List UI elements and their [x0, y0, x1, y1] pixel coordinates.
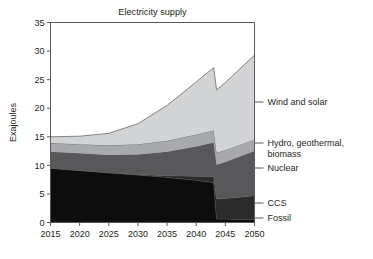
legend-label-hydro-geothermal-biomass: biomass: [268, 149, 302, 159]
legend-label-wind-and-solar: Wind and solar: [268, 97, 328, 107]
chart-figure: 0510152025303520152020202520302035204020…: [0, 0, 373, 259]
legend-label-ccs: CCS: [268, 198, 287, 208]
x-tick-label: 2040: [186, 229, 206, 239]
legend-label-nuclear: Nuclear: [268, 163, 299, 173]
y-tick-label: 35: [34, 18, 44, 28]
y-tick-label: 10: [34, 161, 44, 171]
x-tick-label: 2035: [157, 229, 177, 239]
x-tick-label: 2050: [244, 229, 264, 239]
y-axis-title: Exajoules: [8, 102, 18, 142]
y-tick-label: 15: [34, 132, 44, 142]
x-tick-label: 2025: [99, 229, 119, 239]
y-tick-label: 25: [34, 75, 44, 85]
y-tick-label: 0: [39, 218, 44, 228]
legend-label-fossil: Fossil: [268, 213, 292, 223]
x-tick-label: 2045: [215, 229, 235, 239]
y-tick-label: 5: [39, 189, 44, 199]
y-tick-label: 20: [34, 103, 44, 113]
x-tick-label: 2030: [128, 229, 148, 239]
y-tick-label: 30: [34, 46, 44, 56]
area-series-wind-and-solar: [51, 55, 255, 153]
x-tick-label: 2015: [40, 229, 60, 239]
legend-label-hydro-geothermal-biomass: Hydro, geothermal,: [268, 138, 345, 148]
chart-title: Electricity supply: [118, 7, 187, 17]
x-tick-label: 2020: [70, 229, 90, 239]
electricity-supply-area-chart: 0510152025303520152020202520302035204020…: [0, 0, 373, 259]
